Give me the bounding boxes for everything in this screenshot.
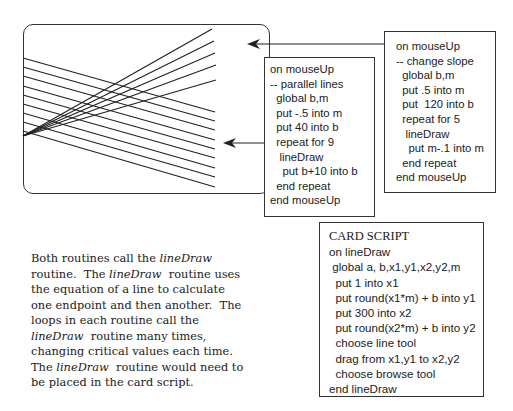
parallel-lines [23, 58, 215, 187]
script-line: global a, b,x1,y1,x2,y2,m [329, 259, 483, 274]
description-text: routine many times, [83, 329, 206, 343]
description-line: be placed in the card script. [31, 375, 301, 391]
description-paragraph: Both routines call the lineDrawroutine. … [31, 251, 301, 391]
description-text: The [31, 360, 56, 374]
script-line: put 300 into x2 [329, 305, 483, 320]
script-line: put .5 into m [396, 83, 495, 98]
parallel-line [23, 131, 215, 187]
script-line: on mouseUp [396, 39, 495, 54]
description-text: Both routines call the [31, 251, 160, 265]
script-line: put round(x2*m) + b into y2 [329, 320, 483, 335]
description-line: the equation of a line to calculate [31, 282, 301, 298]
card-script-title: CARD SCRIPT [329, 229, 483, 244]
description-text: routine uses [162, 267, 241, 281]
description-line: Both routines call the lineDraw [31, 251, 301, 267]
script-line: end mouseUp [396, 170, 495, 185]
description-text: routine would need to [109, 360, 243, 374]
routine-name: lineDraw [31, 329, 83, 343]
script-line: -- parallel lines [270, 77, 374, 92]
script-line: put 40 into b [270, 120, 374, 135]
script-line: end mouseUp [270, 193, 374, 208]
script-line: lineDraw [270, 150, 374, 165]
script-line: put b+10 into b [270, 164, 374, 179]
description-line: lineDraw routine many times, [31, 329, 301, 345]
description-text: routine. The [31, 267, 109, 281]
script-line: global b,m [270, 91, 374, 106]
script-line: drag from x1,y1 to x2,y2 [329, 351, 483, 366]
script-line: put m-.1 into m [396, 141, 495, 156]
routine-name: lineDraw [56, 360, 108, 374]
script-line: put round(x1*m) + b into y1 [329, 290, 483, 305]
script-line: end repeat [396, 156, 495, 171]
script-line: on lineDraw [329, 244, 483, 259]
description-line: changing critical values each time. [31, 344, 301, 360]
description-line: loops in each routine call the [31, 313, 301, 329]
script-line: end lineDraw [329, 381, 483, 396]
script-line: -- change slope [396, 54, 495, 69]
script-line: global b,m [396, 68, 495, 83]
description-line: one endpoint and then another. The [31, 298, 301, 314]
routine-name: lineDraw [109, 267, 161, 281]
script-line: repeat for 9 [270, 135, 374, 150]
description-text: be placed in the card script. [31, 375, 194, 389]
slope-line [23, 29, 212, 136]
card-script-box: CARD SCRIPT on lineDraw global a, b,x1,y… [319, 222, 484, 397]
script-line: end repeat [270, 179, 374, 194]
script-line: lineDraw [396, 127, 495, 142]
description-text: the equation of a line to calculate [31, 282, 225, 296]
script-line: choose line tool [329, 335, 483, 350]
script-line: repeat for 5 [396, 112, 495, 127]
description-text: one endpoint and then another. The [31, 298, 241, 312]
script-line: on mouseUp [270, 62, 374, 77]
description-line: The lineDraw routine would need to [31, 360, 301, 376]
slope-lines [23, 29, 216, 136]
script-line: put -.5 into m [270, 106, 374, 121]
routine-name: lineDraw [160, 251, 212, 265]
description-text: loops in each routine call the [31, 313, 199, 327]
parallel-lines-script-box: on mouseUp-- parallel lines global b,m p… [264, 57, 375, 217]
script-line: put 1 into x1 [329, 275, 483, 290]
change-slope-script-box: on mouseUp-- change slope global b,m put… [384, 31, 496, 193]
script-line: put 120 into b [396, 97, 495, 112]
script-line: choose browse tool [329, 366, 483, 381]
description-text: changing critical values each time. [31, 344, 233, 358]
description-line: routine. The lineDraw routine uses [31, 267, 301, 283]
